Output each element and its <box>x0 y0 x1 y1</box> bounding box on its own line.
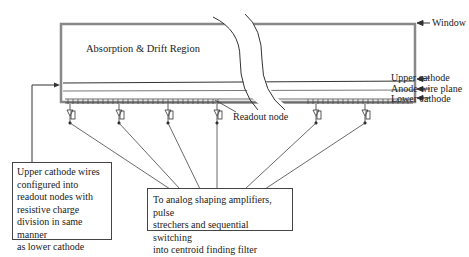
left-note-line: Upper cathode wires <box>17 166 107 179</box>
anode-wire-plane-line <box>63 90 414 91</box>
amplifiers <box>67 104 370 124</box>
upper-cathode-connector <box>32 85 56 162</box>
lower-cathode-label: Lower cathode <box>391 93 451 105</box>
cut-break-area <box>213 14 290 108</box>
signal-lines <box>70 123 365 189</box>
upper-cathode-arrowhead <box>54 83 60 88</box>
left-note-line: as lower cathode <box>17 241 107 254</box>
left-note-box: Upper cathode wires configured into read… <box>12 162 112 240</box>
absorption-drift-region-label: Absorption & Drift Region <box>86 43 200 55</box>
bottom-note-line: into centroid finding filter <box>153 244 287 257</box>
window-label: Window <box>432 17 466 29</box>
left-note-line: readout nodes with <box>17 191 107 204</box>
bottom-note-line: strechers and sequential switching <box>153 219 287 244</box>
upper-cathode-line <box>63 81 414 83</box>
bottom-note-box: To analog shaping amplifiers, pulse stre… <box>147 188 293 231</box>
bottom-note-line: To analog shaping amplifiers, pulse <box>153 194 287 219</box>
left-note-line: configured into <box>17 179 107 192</box>
readout-node-label: Readout node <box>233 111 288 123</box>
left-note-line: resistive charge <box>17 204 107 217</box>
left-note-line: division in same manner <box>17 216 107 241</box>
